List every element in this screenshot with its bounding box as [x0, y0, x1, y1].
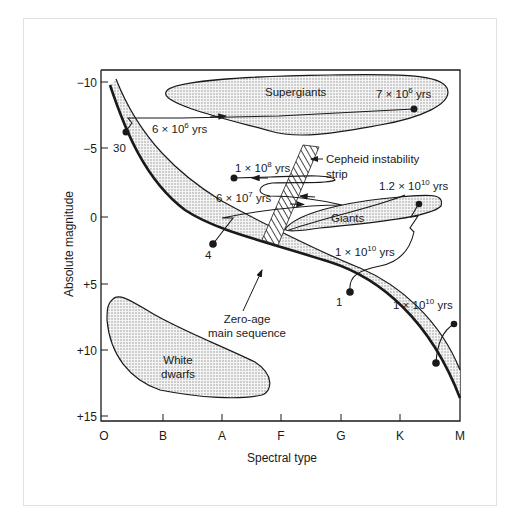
cepheid-label-line1: Cepheid instability — [326, 153, 420, 165]
y-tick-label: +15 — [77, 410, 98, 424]
mass-label-4: 4 — [205, 249, 212, 261]
y-axis-title: Absolute magnitude — [62, 191, 76, 297]
age-label-1e8: 1 × 108 yrs — [235, 160, 291, 174]
white-dwarfs-label-line2: dwarfs — [161, 368, 195, 380]
x-tick-label: O — [99, 429, 108, 443]
supergiants-region — [166, 75, 448, 135]
age-label-7e6: 7 × 106 yrs — [376, 86, 432, 100]
y-tick-label: +5 — [83, 278, 97, 292]
cepheid-label-line2: strip — [326, 168, 348, 180]
zams-label-line1: Zero-age — [224, 313, 271, 325]
age-label-1.2e10: 1.2 × 1010 yrs — [379, 178, 449, 192]
x-tick-label: G — [336, 429, 345, 443]
age-label-1e10-lower: 1 × 1010 yrs — [393, 297, 453, 311]
x-tick-label: A — [218, 429, 226, 443]
y-tick-label: 0 — [90, 211, 97, 225]
white-dwarfs-region — [107, 297, 270, 398]
y-tick-label: −10 — [77, 76, 98, 90]
zams-pointer — [243, 270, 262, 311]
x-tick-label: B — [159, 429, 167, 443]
supergiants-label: Supergiants — [265, 86, 327, 98]
x-axis-title: Spectral type — [247, 451, 317, 465]
x-tick-label: M — [455, 429, 465, 443]
giants-label: Giants — [331, 212, 364, 224]
x-tick-label: F — [277, 429, 284, 443]
mass-label-30: 30 — [113, 142, 126, 154]
age-label-6e7: 6 × 107 yrs — [216, 190, 272, 204]
mass-label-1: 1 — [336, 296, 342, 308]
hr-diagram: −10 −5 0 +5 +10 +15 Absolute magnitude O… — [0, 0, 506, 530]
white-dwarfs-label-line1: White — [163, 354, 192, 366]
x-tick-label: K — [396, 429, 404, 443]
y-tick-label: +10 — [77, 344, 98, 358]
zams-label-line2: main sequence — [208, 327, 286, 339]
y-tick-label: −5 — [83, 142, 97, 156]
age-label-1e10-upper: 1 × 1010 yrs — [335, 244, 395, 258]
age-label-6e6: 6 × 106 yrs — [152, 121, 208, 135]
